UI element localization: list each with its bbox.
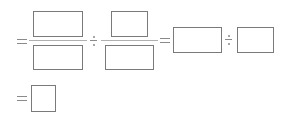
quotient-right-box[interactable] <box>237 27 274 53</box>
equals-sign-2 <box>160 38 170 43</box>
fraction1-bar <box>29 40 87 41</box>
fraction2-bar <box>101 40 158 41</box>
equals-sign-3 <box>17 96 27 101</box>
fraction1-numerator-box[interactable] <box>33 11 83 37</box>
equals-sign-1 <box>17 39 27 44</box>
quotient-left-box[interactable] <box>173 27 222 53</box>
divide-sign-1 <box>90 35 97 46</box>
fraction1-denominator-box[interactable] <box>33 45 83 70</box>
fraction2-denominator-box[interactable] <box>105 45 154 70</box>
answer-box[interactable] <box>31 85 56 112</box>
divide-sign-2 <box>225 34 232 45</box>
fraction2-numerator-box[interactable] <box>111 11 148 37</box>
